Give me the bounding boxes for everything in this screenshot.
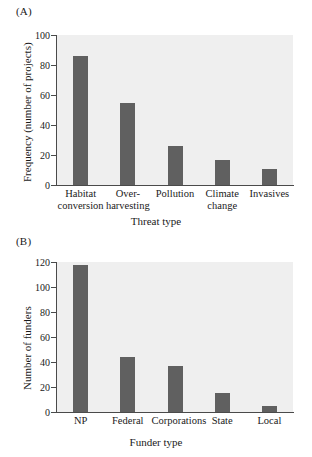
category-label-line1: State [212, 415, 233, 426]
y-tick-mark [51, 412, 56, 413]
bar [262, 406, 277, 412]
y-tick-label: 0 [10, 408, 50, 418]
bar [215, 393, 230, 412]
y-tick-mark [51, 287, 56, 288]
y-tick-label: 120 [10, 258, 50, 268]
y-tick-mark [51, 337, 56, 338]
y-tick-mark [51, 362, 56, 363]
category-label: NP [57, 415, 104, 427]
y-tick-mark [51, 312, 56, 313]
category-label: Federal [104, 415, 151, 427]
bar [73, 265, 88, 413]
category-label: State [199, 415, 246, 427]
y-tick-label: 100 [10, 283, 50, 293]
panel-b-y-axis-title: Number of funders [22, 306, 33, 390]
figure-container: (A) 020406080100 HabitatconversionOver-h… [0, 0, 312, 457]
panel-b-plot: 020406080100120 NPFederalCorporationsSta… [0, 0, 312, 457]
category-label-line1: Federal [112, 415, 144, 426]
category-label-line1: Local [257, 415, 281, 426]
category-label: Local [246, 415, 293, 427]
category-label-line1: NP [74, 415, 87, 426]
y-tick-mark [51, 262, 56, 263]
panel-b-x-axis-line [56, 412, 294, 413]
y-tick-mark [51, 387, 56, 388]
bar [168, 366, 183, 412]
panel-b-bars [57, 262, 293, 412]
category-label: Corporations [151, 415, 198, 427]
bar [120, 357, 135, 412]
panel-b-x-axis-title: Funder type [0, 437, 312, 448]
